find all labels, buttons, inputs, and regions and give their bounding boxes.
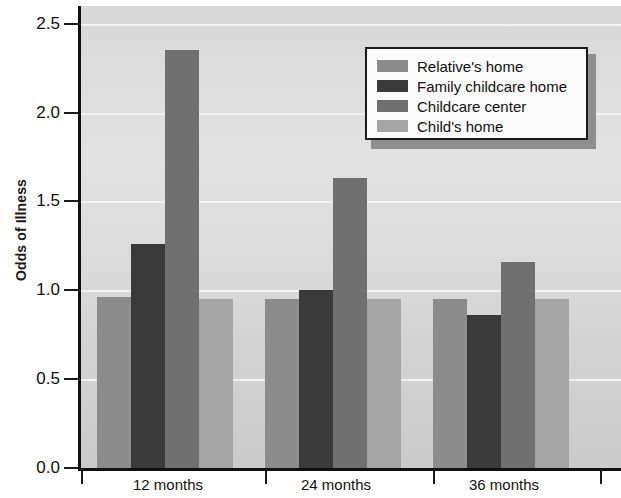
x-axis-line — [78, 468, 621, 471]
bar — [265, 299, 299, 468]
y-axis-tick-mark — [64, 23, 78, 25]
legend-label: Family childcare home — [417, 79, 567, 94]
legend-label: Child's home — [417, 119, 503, 134]
legend-item: Childcare center — [377, 96, 586, 116]
y-axis-tick-label: 1.0 — [14, 280, 60, 300]
y-axis-tick-label: 1.5 — [14, 191, 60, 211]
y-axis-tick-label: 0.5 — [14, 369, 60, 389]
legend-swatch — [377, 100, 408, 112]
x-axis-group-label: 12 months — [133, 476, 203, 493]
bar — [165, 50, 199, 468]
bar — [97, 297, 131, 468]
y-axis-tick-mark — [64, 112, 78, 114]
legend-item: Relative's home — [377, 56, 586, 76]
y-axis-tick-label: 2.0 — [14, 103, 60, 123]
bar — [299, 290, 333, 468]
y-axis-tick-mark — [64, 289, 78, 291]
y-axis-tick-mark — [64, 200, 78, 202]
legend-label: Childcare center — [417, 99, 526, 114]
bar — [131, 244, 165, 468]
y-axis-tick-mark — [64, 467, 78, 469]
y-axis-line — [78, 6, 81, 470]
legend-swatch — [377, 80, 408, 92]
x-axis-tick-mark — [265, 471, 267, 484]
bar — [367, 299, 401, 468]
gridline — [81, 24, 621, 26]
bar — [433, 299, 467, 468]
bar — [199, 299, 233, 468]
legend-swatch — [377, 60, 408, 72]
y-axis-tick-label: 0.0 — [14, 458, 60, 478]
legend: Relative's homeFamily childcare homeChil… — [365, 47, 588, 140]
x-axis-tick-mark — [81, 471, 83, 484]
y-axis-tick-labels: 2.52.01.51.00.50.0 — [14, 0, 60, 498]
x-axis-group-label: 36 months — [469, 476, 539, 493]
y-axis-tick-mark — [64, 378, 78, 380]
bar — [501, 262, 535, 468]
x-axis-group-label: 24 months — [301, 476, 371, 493]
bar-chart: Odds of Illness 2.52.01.51.00.50.0 12 mo… — [0, 0, 621, 498]
bar — [535, 299, 569, 468]
legend-item: Child's home — [377, 116, 586, 136]
legend-label: Relative's home — [417, 59, 523, 74]
x-axis-tick-mark — [433, 471, 435, 484]
bar — [467, 315, 501, 468]
x-axis-tick-mark — [600, 471, 602, 484]
y-axis-tick-label: 2.5 — [14, 14, 60, 34]
legend-item: Family childcare home — [377, 76, 586, 96]
legend-swatch — [377, 120, 408, 132]
bar — [333, 178, 367, 468]
